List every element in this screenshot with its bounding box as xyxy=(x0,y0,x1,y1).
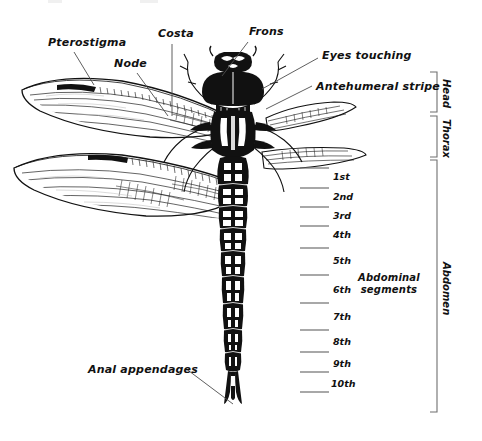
segment-label-6th: 6th xyxy=(333,284,351,295)
segment-label-3rd: 3rd xyxy=(333,210,351,221)
region-label-thorax: Thorax xyxy=(441,119,452,158)
segment-label-10th: 10th xyxy=(331,378,356,389)
segment-label-2nd: 2nd xyxy=(333,191,353,202)
wing-left-lower xyxy=(14,154,238,220)
diagram-canvas: Pterostigma Node Costa Frons Eyes touchi… xyxy=(0,0,482,441)
callout-label-antehumeral-stripe: Antehumeral stripe xyxy=(316,81,440,94)
wing-right-upper xyxy=(266,102,356,131)
head xyxy=(202,46,264,115)
wing-right-lower xyxy=(262,148,366,170)
segment-label-7th: 7th xyxy=(333,311,351,322)
segment-label-5th: 5th xyxy=(333,255,351,266)
segment-label-4th: 4th xyxy=(333,229,351,240)
callout-label-eyes-touching: Eyes touching xyxy=(322,50,412,63)
abdominal-segments-line-2: segments xyxy=(353,284,425,296)
cropped-text-remnant xyxy=(48,0,158,3)
callout-label-costa: Costa xyxy=(158,28,194,41)
abdominal-segments-line-1: Abdominal xyxy=(353,272,425,284)
abdomen xyxy=(217,156,248,372)
callout-label-pterostigma: Pterostigma xyxy=(48,37,126,50)
dragonfly-illustration xyxy=(0,0,482,441)
callout-label-node: Node xyxy=(114,58,147,71)
segment-label-9th: 9th xyxy=(333,358,351,369)
region-label-abdomen: Abdomen xyxy=(441,262,452,315)
region-label-head: Head xyxy=(441,79,452,108)
segment-label-8th: 8th xyxy=(333,336,351,347)
callout-label-frons: Frons xyxy=(249,26,284,39)
segment-label-1st: 1st xyxy=(333,171,350,182)
callout-label-anal-appendages: Anal appendages xyxy=(88,364,198,377)
anal-appendages xyxy=(224,371,242,404)
abdominal-segments-group-label: Abdominal segments xyxy=(353,272,425,295)
